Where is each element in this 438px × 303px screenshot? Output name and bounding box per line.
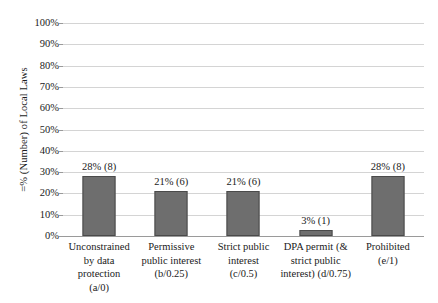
bar-value-label: 21% (6) [154,176,188,188]
x-tick-label: Unconstrained by data protection (a/0) [63,240,135,294]
bar-slot: 21% (6) [207,23,279,236]
bar-chart: =% (Number) of Local Laws 0%10%20%30%40%… [0,0,438,303]
x-tick-label: Permissive public interest (b/0.25) [135,240,207,281]
bar[interactable] [83,176,116,236]
y-tick-label: 30% [3,166,59,177]
y-tick-label: 80% [3,60,59,71]
y-tick-label: 100% [3,17,59,28]
bar[interactable] [299,230,332,236]
y-tick-label: 90% [3,38,59,49]
bar[interactable] [227,191,260,236]
bar-slot: 28% (8) [352,23,424,236]
bar-value-label: 28% (8) [371,161,405,173]
y-tick-label: 50% [3,124,59,135]
bar-value-label: 28% (8) [82,161,116,173]
axis-baseline [63,236,424,237]
x-tick-label: Strict public interest (c/0.5) [207,240,279,281]
x-tick-label: Prohibited (e/1) [352,240,424,267]
x-axis-labels: Unconstrained by data protection (a/0)Pe… [63,240,424,302]
bar-slot: 21% (6) [135,23,207,236]
bar-value-label: 3% (1) [301,215,330,227]
x-tick-label: DPA permit (& strict public interest) (d… [280,240,352,281]
bar[interactable] [155,191,188,236]
bar-value-label: 21% (6) [226,176,260,188]
y-tick-label: 70% [3,81,59,92]
y-tick-label: 10% [3,209,59,220]
bar-slot: 28% (8) [63,23,135,236]
y-tick-label: 40% [3,145,59,156]
y-tick-label: 60% [3,102,59,113]
y-tick-label: 20% [3,187,59,198]
y-axis-ticks: 0%10%20%30%40%50%60%70%80%90%100% [0,23,59,236]
bar[interactable] [371,176,404,236]
y-tick-label: 0% [3,230,59,241]
bar-slot: 3% (1) [280,23,352,236]
bars-layer: 28% (8)21% (6)21% (6)3% (1)28% (8) [63,23,424,236]
